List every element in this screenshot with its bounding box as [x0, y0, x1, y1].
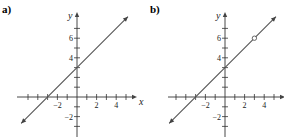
series-line — [169, 17, 276, 124]
y-tick-label: 4 — [217, 54, 221, 63]
x-tick-label: 2 — [243, 101, 247, 110]
y-axis-label: y — [215, 10, 221, 21]
x-axis-arrow — [132, 95, 137, 99]
y-tick-label: 6 — [69, 34, 73, 43]
x-tick-label: 2 — [95, 101, 99, 110]
x-axis-label: x — [138, 96, 144, 107]
x-tick-label: 4 — [114, 101, 118, 110]
open-point — [252, 36, 256, 40]
x-tick-label: −2 — [201, 101, 210, 110]
chart-canvas: a)−224−246xyb)−224−246xy — [0, 0, 284, 137]
y-axis-arrow — [75, 12, 79, 17]
y-tick-label: −2 — [64, 113, 73, 122]
panel-label: a) — [2, 3, 12, 16]
x-tick-label: 4 — [262, 101, 266, 110]
y-axis-label: y — [67, 10, 73, 21]
x-axis-arrow — [280, 95, 284, 99]
y-axis-arrow — [223, 12, 227, 17]
panel-label: b) — [150, 3, 160, 16]
x-tick-label: −2 — [53, 101, 62, 110]
series-line — [21, 17, 128, 124]
y-tick-label: 4 — [69, 54, 73, 63]
y-tick-label: −2 — [212, 113, 221, 122]
y-tick-label: 6 — [217, 34, 221, 43]
